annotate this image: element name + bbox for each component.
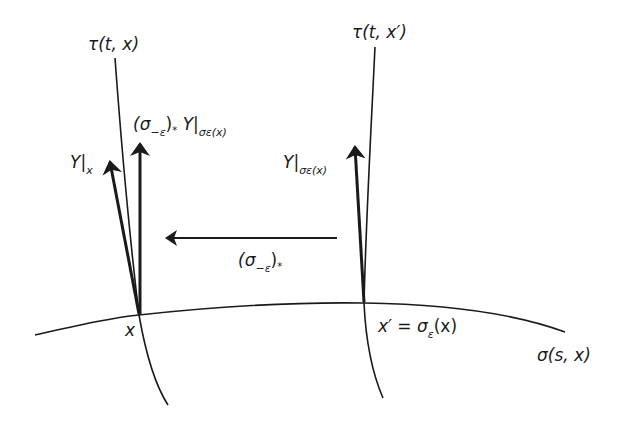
- sigma-symbol: σ: [417, 316, 428, 336]
- Y-symbol: Y: [283, 152, 293, 172]
- xprime-lhs: x′: [378, 316, 392, 336]
- tau-right-label: τ(t, x′): [352, 24, 407, 41]
- sigma-eps-x-sub: σε(x): [299, 164, 327, 177]
- restriction-bar: |: [193, 114, 199, 134]
- Y-symbol: Y: [70, 152, 80, 172]
- map-arrow-label: (σ−ε)*: [238, 252, 282, 269]
- tau-left-label: τ(t, x): [88, 36, 139, 53]
- xprime-arg: (x): [434, 316, 457, 336]
- open-sigma: (σ: [238, 250, 255, 270]
- point-xprime-label: x′ = σε(x): [378, 318, 457, 335]
- tau-right-curve: [364, 47, 383, 398]
- pushforward-vector-label: (σ−ε)* Y|σε(x): [133, 116, 227, 133]
- epsilon-sub: ε: [428, 328, 434, 341]
- minus-eps-sub: −ε: [255, 262, 270, 275]
- vector-Y-at-x: [110, 162, 139, 314]
- sigma-curve-label: σ(s, x): [537, 347, 591, 364]
- sigma-eps-x-sub: σε(x): [199, 126, 227, 139]
- Y-at-x-label: Y|x: [70, 154, 93, 171]
- vector-Y-at-xprime: [355, 147, 364, 302]
- Y-symbol: Y: [177, 114, 193, 134]
- star-sub: *: [277, 261, 282, 272]
- star-sub: *: [172, 125, 177, 136]
- Y-at-xprime-label: Y|σε(x): [283, 154, 327, 171]
- x-sub: x: [86, 164, 93, 177]
- sigma-curve: [35, 303, 565, 335]
- diagram-canvas: [0, 0, 627, 430]
- open-sigma: (σ: [133, 114, 150, 134]
- point-x-label: x: [125, 322, 135, 339]
- equals-sign: =: [392, 316, 417, 336]
- minus-eps-sub: −ε: [150, 126, 165, 139]
